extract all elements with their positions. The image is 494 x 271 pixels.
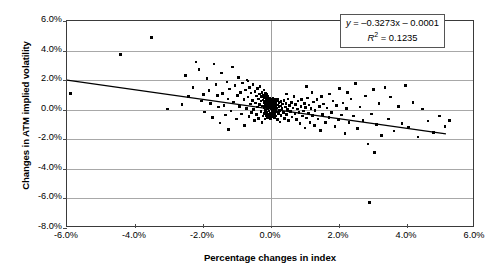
r-squared-value: = 0.1235 (378, 32, 417, 43)
x-axis-tick-label: 4.0% (376, 231, 436, 240)
y-axis-tick-label: -2.0% (22, 133, 62, 142)
x-axis-tick-label: 2.0% (308, 231, 368, 240)
y-axis-tick-label: 0.0% (22, 104, 62, 113)
plot-area (66, 20, 474, 227)
x-axis-tick-labels: -6.0%-4.0%-2.0%0.0%2.0%4.0%6.0% (0, 231, 494, 245)
x-axis-tick-label: -6.0% (36, 231, 96, 240)
x-axis-title: Percentage changes in index (66, 252, 474, 263)
equation-line: y = –0.3273x – 0.0001 (346, 17, 439, 29)
y-axis-tick-label: -4.0% (22, 163, 62, 172)
y-axis-tick-mark (63, 228, 67, 229)
y-axis-tick-label: 6.0% (22, 15, 62, 24)
x-axis-tick-label: 0.0% (240, 231, 300, 240)
x-axis-tick-label: -4.0% (104, 231, 164, 240)
x-axis-tick-label: 6.0% (444, 231, 494, 240)
y-axis-tick-label: -6.0% (22, 192, 62, 201)
x-axis-tick-label: -2.0% (172, 231, 232, 240)
scatter-chart-figure: Changes in ATM implied volatility 6.0%4.… (0, 0, 494, 271)
y-axis-tick-label: 4.0% (22, 45, 62, 54)
equation-expression: = –0.3273x – 0.0001 (351, 17, 439, 28)
regression-equation-box: y = –0.3273x – 0.0001 R2 = 0.1235 (340, 14, 445, 48)
y-axis-tick-label: 2.0% (22, 74, 62, 83)
trendline (67, 21, 473, 226)
r-squared-line: R2 = 0.1235 (346, 29, 439, 44)
